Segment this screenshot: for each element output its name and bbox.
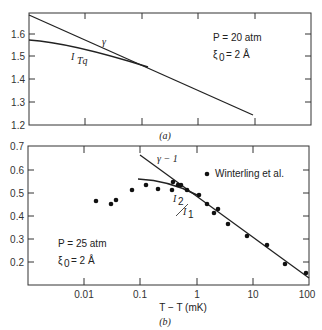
a-pressure: P = 20 atm (213, 32, 261, 43)
a-ytick-1.4: 1.4 (11, 74, 25, 85)
a-itq-curve (29, 40, 148, 67)
a-ytick-1.6: 1.6 (11, 29, 25, 40)
a-xi: ξ (213, 49, 218, 61)
b-xtick-0.1: 0.1 (133, 289, 147, 300)
b-ytick-0.2: 0.2 (10, 257, 24, 268)
a-caption: (a) (159, 130, 171, 142)
b-i1-sub: 1 (188, 209, 194, 220)
b-xi-sub: 0 (64, 258, 70, 269)
a-ytick-1.2: 1.2 (11, 120, 25, 131)
a-itq-sub: Tq (77, 55, 88, 66)
b-xtick-10: 10 (247, 289, 259, 300)
a-ytick-1.5: 1.5 (11, 51, 25, 62)
winterling-data-points (94, 180, 309, 276)
b-ytick-0.5: 0.5 (10, 188, 24, 199)
b-xlabel: T − T (mK) (159, 302, 207, 313)
b-i2-label: I (172, 193, 177, 204)
panel-b: 0.7 0.6 0.5 0.4 0.3 0.2 0.01 0.1 1 10 10… (10, 141, 316, 328)
b-gamma-label: γ − 1 (157, 153, 178, 164)
legend-marker (205, 172, 210, 177)
b-xtick-0.01: 0.01 (74, 289, 94, 300)
b-ytick-0.6: 0.6 (10, 165, 24, 176)
b-ytick-0.3: 0.3 (10, 234, 24, 245)
panel-a-frame (29, 13, 311, 125)
b-xtick-100: 100 (299, 289, 316, 300)
b-legend-label: Winterling et al. (215, 168, 284, 179)
a-gamma-label: γ (102, 36, 107, 47)
b-pressure: P = 25 atm (58, 238, 106, 249)
b-i1-label: I (182, 206, 187, 217)
b-xi-rest: = 2 Å (71, 254, 95, 266)
figure: 1.6 1.5 1.4 1.3 1.2 γ I Tq P = 20 atm ξ … (0, 0, 322, 330)
b-xtick-1: 1 (194, 289, 200, 300)
a-ytick-1.3: 1.3 (11, 97, 25, 108)
a-xi-rest: = 2 Å (226, 48, 250, 60)
a-itq-label: I (70, 51, 75, 62)
panel-a: 1.6 1.5 1.4 1.3 1.2 γ I Tq P = 20 atm ξ … (11, 13, 311, 142)
b-ytick-0.4: 0.4 (10, 211, 24, 222)
b-ytick-0.7: 0.7 (10, 141, 24, 152)
a-xi-sub: 0 (219, 52, 225, 63)
b-caption: (b) (159, 316, 171, 328)
b-xi: ξ (58, 255, 63, 267)
